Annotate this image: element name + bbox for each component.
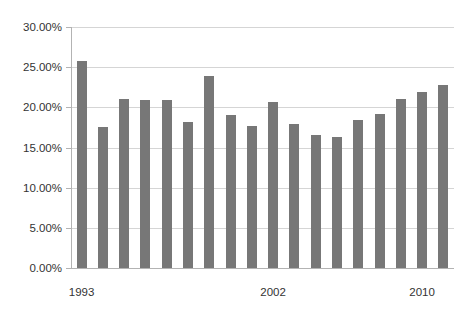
bar bbox=[396, 99, 406, 268]
bar bbox=[204, 76, 214, 268]
bar-series bbox=[71, 27, 454, 268]
y-axis-tick-label: 10.00% bbox=[23, 182, 62, 194]
bar bbox=[353, 120, 363, 268]
y-axis-labels: 0.00%5.00%10.00%15.00%20.00%25.00%30.00% bbox=[0, 0, 71, 321]
bar bbox=[438, 85, 448, 268]
bar bbox=[140, 100, 150, 268]
x-axis-tick-label: 2010 bbox=[409, 286, 435, 298]
bar bbox=[332, 137, 342, 268]
bar bbox=[183, 122, 193, 268]
bar bbox=[226, 115, 236, 268]
bar bbox=[268, 102, 278, 268]
y-axis-tick-label: 25.00% bbox=[23, 61, 62, 73]
y-axis-tick-label: 15.00% bbox=[23, 142, 62, 154]
bar bbox=[119, 99, 129, 268]
x-axis-line bbox=[71, 268, 454, 269]
x-axis-tick-label: 1993 bbox=[69, 286, 95, 298]
bar bbox=[162, 100, 172, 268]
x-axis-labels: 199320022010 bbox=[71, 276, 454, 306]
bar bbox=[247, 126, 257, 268]
x-axis-tick-label: 2002 bbox=[260, 286, 286, 298]
bar bbox=[77, 61, 87, 268]
bar bbox=[98, 127, 108, 268]
bar bbox=[289, 124, 299, 268]
y-axis-tick-label: 5.00% bbox=[29, 222, 62, 234]
bar bbox=[375, 114, 385, 268]
y-axis-tick-label: 20.00% bbox=[23, 101, 62, 113]
y-axis-tick-label: 30.00% bbox=[23, 21, 62, 33]
y-axis-tick-label: 0.00% bbox=[29, 262, 62, 274]
bar bbox=[311, 135, 321, 268]
bar bbox=[417, 92, 427, 268]
bar-chart: 0.00%5.00%10.00%15.00%20.00%25.00%30.00%… bbox=[0, 0, 461, 321]
